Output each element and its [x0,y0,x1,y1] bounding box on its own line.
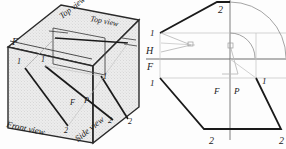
label-point-2-c: 2 [128,117,132,126]
label-plane-P-right: P [233,86,240,96]
label-point-2-bottom-left: 2 [209,135,214,146]
f-plane-outline [160,78,230,129]
label-plane-P: P [83,96,89,105]
label-plane-F-center: F [213,86,220,96]
label-point-1-mid-left: 1 [150,78,155,88]
label-point-2-a: 2 [64,126,68,135]
label-plane-F: F [69,98,75,107]
figure-canvas: F F P 1 1 1 2 2 2 Top view Top view Fron… [0,0,286,149]
p-plane-construction [230,59,256,78]
label-point-2-top: 2 [218,4,223,15]
revolution-arc-outer [230,2,286,58]
label-point-1-c: 1 [103,72,107,81]
label-fold-F: F [11,36,19,47]
technical-drawing-svg: F F P 1 1 1 2 2 2 Top view Top view Fron… [0,0,286,149]
label-plane-F-left: F [146,61,154,72]
pictorial-box-group: F F P 1 1 1 2 2 2 Top view Top view Fron… [5,0,139,144]
revolution-arc-inner [230,33,255,58]
wedge-upper [161,33,191,52]
wedge-upper-axis [161,43,195,45]
label-point-2-b: 2 [108,116,112,125]
label-point-2-bottom-right: 2 [279,135,284,146]
label-point-1-a: 1 [17,57,21,66]
label-point-1-right: 1 [262,76,267,86]
label-point-1-top-left: 1 [150,28,155,38]
label-plane-H: H [145,45,154,56]
label-point-1-b: 1 [41,55,45,64]
unfolded-projection-group: H F F P 1 1 1 2 2 2 [145,0,286,146]
